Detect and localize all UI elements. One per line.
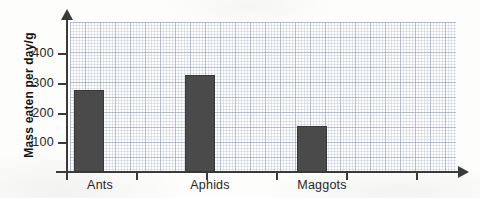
y-tick-label-400: 400 — [32, 46, 54, 60]
y-tick-label-200: 200 — [32, 106, 54, 120]
y-tick-label-group: 400 300 200 100 — [0, 0, 54, 198]
bar-chart: Mass eaten per day/g 400 300 200 100 Ant… — [0, 0, 480, 198]
x-tick-1 — [136, 172, 138, 180]
bar-ants — [74, 90, 104, 172]
x-tick-0 — [66, 172, 68, 180]
y-tick-label-100: 100 — [32, 135, 54, 149]
x-label-aphids: Aphids — [190, 178, 229, 192]
x-axis-arrow-icon — [458, 166, 469, 178]
x-axis-line — [56, 171, 460, 173]
y-tick-100 — [58, 142, 67, 144]
x-label-maggots: Maggots — [297, 178, 346, 192]
plot-grid-area — [70, 22, 456, 172]
x-tick-5 — [416, 172, 418, 180]
y-axis-line — [66, 17, 68, 174]
y-tick-200 — [58, 113, 67, 115]
x-label-ants: Ants — [87, 178, 113, 192]
bar-maggots — [297, 126, 327, 172]
y-axis-arrow-icon — [61, 9, 73, 20]
y-tick-300 — [58, 83, 67, 85]
y-tick-label-300: 300 — [32, 76, 54, 90]
x-tick-3 — [276, 172, 278, 180]
bar-aphids — [185, 75, 215, 172]
y-tick-400 — [58, 53, 67, 55]
